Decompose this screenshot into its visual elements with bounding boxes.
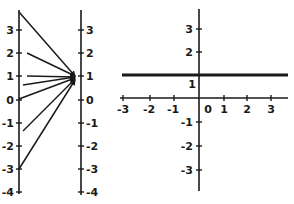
x-label-neg1: -1 <box>167 103 179 116</box>
domain-number-line: 3 2 1 0 -1 -2 -3 -4 <box>2 10 22 199</box>
range-label-neg3: -3 <box>86 163 98 176</box>
y-label-neg3: -3 <box>181 164 193 177</box>
x-label-neg3: -3 <box>117 103 129 116</box>
x-label-neg2: -2 <box>143 103 155 116</box>
figure-canvas: 3 2 1 0 -1 -2 -3 -4 3 2 1 <box>0 0 294 204</box>
range-label-neg4: -4 <box>86 186 99 199</box>
domain-label-neg3: -3 <box>2 163 14 176</box>
x-label-1: 1 <box>220 103 228 116</box>
arrow-from-3.75 <box>19 12 75 76</box>
domain-label-neg1: -1 <box>2 117 14 130</box>
mapping-arrows <box>19 12 75 169</box>
range-label-3: 3 <box>86 24 94 37</box>
domain-label-2: 2 <box>6 47 14 60</box>
domain-label-1: 1 <box>6 70 14 83</box>
domain-label-neg4: -4 <box>2 186 15 199</box>
arrow-from-2 <box>27 53 75 76</box>
y-label-1: 1 <box>188 78 196 91</box>
cartesian-graph: 3 2 1 -1 -2 -3 -3 -2 -1 0 1 2 3 <box>117 9 288 191</box>
x-label-3: 3 <box>267 103 275 116</box>
mapping-diagram: 3 2 1 0 -1 -2 -3 -4 3 2 1 <box>2 10 99 199</box>
x-label-0: 0 <box>204 103 212 116</box>
domain-label-neg2: -2 <box>2 140 14 153</box>
range-label-neg1: -1 <box>86 117 98 130</box>
y-label-neg2: -2 <box>181 140 193 153</box>
arrow-from-1 <box>27 76 75 77</box>
x-label-2: 2 <box>243 103 251 116</box>
range-label-2: 2 <box>86 47 94 60</box>
y-label-2: 2 <box>185 46 193 59</box>
arrow-from-neg1.4 <box>23 79 75 131</box>
range-label-0: 0 <box>86 94 94 107</box>
range-number-line: 3 2 1 0 -1 -2 -3 -4 <box>78 10 99 199</box>
range-label-1: 1 <box>86 70 94 83</box>
domain-label-0: 0 <box>6 94 14 107</box>
y-label-3: 3 <box>185 23 193 36</box>
range-label-neg2: -2 <box>86 140 98 153</box>
arrow-from-neg3 <box>19 80 75 169</box>
domain-label-3: 3 <box>6 24 14 37</box>
y-label-neg1: -1 <box>181 116 193 129</box>
